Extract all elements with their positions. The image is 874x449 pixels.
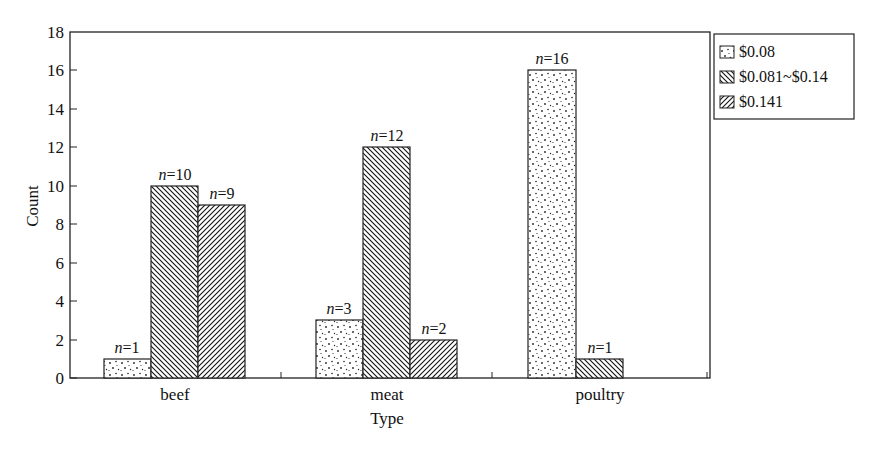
bar-label: n=3 bbox=[326, 300, 351, 317]
y-tick-label: 16 bbox=[47, 61, 64, 80]
x-category-label: beef bbox=[160, 385, 190, 404]
legend: $0.08 $0.081~$0.14 $0.141 bbox=[714, 34, 854, 119]
legend-swatch-backslash bbox=[720, 71, 734, 83]
bar-label: n=12 bbox=[370, 127, 403, 144]
bar-beef-0.081-0.14 bbox=[151, 186, 198, 378]
bar-label: n=10 bbox=[158, 166, 191, 183]
bar-poultry-0.081-0.14 bbox=[576, 359, 623, 378]
bar-group-beef: n=1 n=10 n=9 bbox=[104, 166, 245, 378]
legend-item: $0.08 bbox=[739, 43, 775, 60]
legend-item: $0.081~$0.14 bbox=[739, 68, 828, 85]
bar-group-meat: n=3 n=12 n=2 bbox=[316, 127, 457, 378]
y-tick-label: 14 bbox=[47, 100, 65, 119]
bar-beef-0.08 bbox=[104, 359, 151, 378]
bar-label: n=2 bbox=[421, 320, 446, 337]
bar-poultry-0.08 bbox=[528, 70, 576, 378]
legend-item: $0.141 bbox=[739, 93, 783, 110]
x-axis-title: Type bbox=[370, 409, 404, 428]
bar-meat-0.081-0.14 bbox=[363, 147, 410, 378]
x-category-label: poultry bbox=[575, 385, 625, 404]
y-tick-label: 10 bbox=[47, 177, 64, 196]
y-tick-label: 2 bbox=[56, 331, 65, 350]
bar-beef-0.141 bbox=[198, 205, 245, 378]
y-tick-label: 12 bbox=[47, 138, 64, 157]
bar-label: n=1 bbox=[114, 339, 139, 356]
chart: 0 2 4 6 8 10 12 14 16 18 Count n=1 n=10 … bbox=[0, 0, 874, 449]
bar-label: n=16 bbox=[535, 50, 568, 67]
y-tick-label: 4 bbox=[56, 292, 65, 311]
legend-swatch-slash bbox=[720, 96, 734, 108]
bar-group-poultry: n=16 n=1 bbox=[528, 50, 623, 378]
legend-swatch-dots bbox=[720, 46, 734, 58]
y-axis: 0 2 4 6 8 10 12 14 16 18 bbox=[47, 23, 77, 388]
bar-meat-0.08 bbox=[316, 320, 363, 378]
y-tick-label: 6 bbox=[56, 254, 65, 273]
bar-meat-0.141 bbox=[410, 340, 457, 378]
y-tick-label: 0 bbox=[56, 369, 65, 388]
y-axis-title: Count bbox=[23, 185, 42, 227]
bar-label: n=1 bbox=[587, 339, 612, 356]
y-tick-label: 18 bbox=[47, 23, 64, 42]
x-category-label: meat bbox=[370, 385, 403, 404]
y-tick-label: 8 bbox=[56, 215, 65, 234]
bar-label: n=9 bbox=[209, 185, 234, 202]
